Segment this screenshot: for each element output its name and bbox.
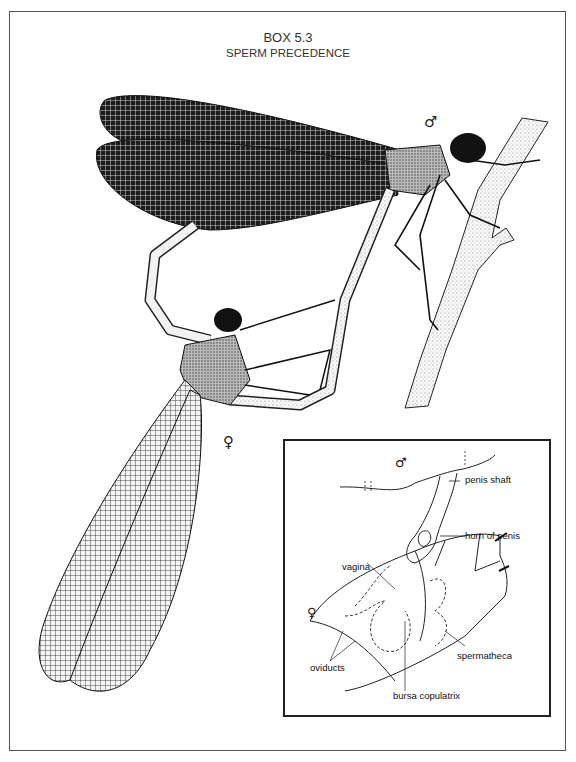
label-spermatheca: spermatheca <box>457 650 512 661</box>
female-body <box>180 300 335 405</box>
male-wings <box>96 96 402 230</box>
inset-male-symbol: ♂ <box>395 455 407 470</box>
genitalia-inset: ♂ ♀ penis shaft horn of penis vagina ovi… <box>283 439 551 717</box>
label-horn-of-penis: horn of penis <box>465 530 520 541</box>
label-oviducts: oviducts <box>310 662 345 673</box>
label-vagina: vagina <box>342 561 370 572</box>
label-bursa-copulatrix: bursa copulatrix <box>393 690 460 701</box>
inset-female-symbol: ♀ <box>307 605 317 620</box>
female-abdomen-loop <box>150 225 210 340</box>
label-penis-shaft: penis shaft <box>465 474 511 485</box>
female-symbol: ♀ <box>223 433 234 451</box>
male-symbol: ♂ <box>424 113 437 131</box>
female-wings <box>39 380 202 691</box>
